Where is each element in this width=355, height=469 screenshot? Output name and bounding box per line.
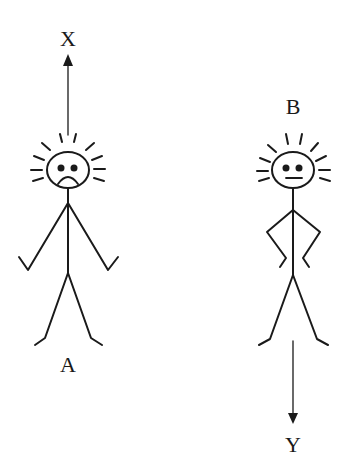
sad-face-icon bbox=[47, 152, 89, 188]
figure-b: B Y bbox=[257, 94, 330, 457]
arrow-up-icon bbox=[63, 54, 73, 135]
arrow-label-x: X bbox=[60, 26, 76, 51]
diagram-canvas: X A B bbox=[0, 0, 355, 469]
stick-body-b bbox=[259, 188, 328, 345]
stick-body-a bbox=[19, 188, 118, 345]
arrow-label-y: Y bbox=[285, 432, 301, 457]
sun-rays-icon bbox=[257, 134, 330, 181]
arrow-down-icon bbox=[288, 341, 298, 424]
neutral-face-icon bbox=[272, 152, 314, 188]
figure-label-b: B bbox=[286, 94, 301, 119]
figure-label-a: A bbox=[60, 352, 76, 377]
figure-a: X A bbox=[19, 26, 118, 377]
sun-rays-icon bbox=[31, 134, 105, 181]
